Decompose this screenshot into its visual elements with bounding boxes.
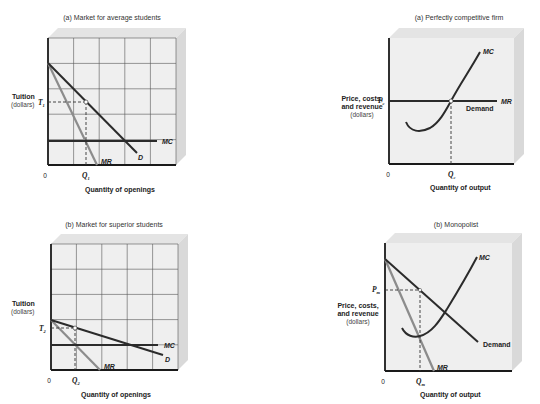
price-tick-label: Pm	[372, 285, 381, 295]
figure-canvas: (a) Market for average students	[0, 0, 540, 404]
x-axis-title: Quantity of openings	[85, 186, 155, 194]
box-side-face	[514, 28, 524, 164]
box-side-face	[512, 233, 522, 371]
demand-label: Demand	[466, 105, 494, 112]
price-tick-label: Pc	[378, 96, 385, 106]
y-axis-title-line2: and revenue	[337, 310, 378, 317]
y-axis-title: Tuition	[12, 300, 35, 307]
box-top-face	[48, 28, 186, 38]
y-axis-unit: (dollars)	[346, 318, 369, 326]
price-tick-label: T1	[38, 98, 45, 108]
y-axis-title-line2: and revenue	[341, 103, 382, 110]
mc-label: MC	[483, 48, 495, 55]
quantity-tick-label: Qc	[448, 170, 455, 180]
y-axis-title-line1: Price, costs,	[337, 302, 378, 310]
mc-label: MC	[162, 138, 174, 145]
y-axis-unit: (dollars)	[11, 308, 34, 316]
panel-superior-students: (b) Market for superior students MC D MR…	[11, 221, 188, 399]
panel-title: (b) Monopolist	[434, 221, 478, 229]
monopoly-price-point	[418, 288, 421, 291]
x-axis-title: Quantity of openings	[81, 391, 151, 399]
x-axis-title: Quantity of output	[420, 391, 481, 399]
equilibrium-point	[73, 326, 77, 330]
y-axis-unit: (dollars)	[11, 101, 34, 109]
quantity-tick-label: Q2	[72, 376, 80, 386]
y-axis-title: Tuition	[12, 93, 35, 100]
mr-label: MR	[101, 158, 112, 165]
box-top-face	[389, 28, 524, 38]
y-axis-unit: (dollars)	[350, 111, 373, 119]
panel-title: (a) Perfectly competitive firm	[415, 14, 504, 22]
mc-label: MC	[164, 342, 176, 349]
panel-title: (b) Market for superior students	[65, 221, 163, 229]
origin-label: 0	[381, 378, 385, 385]
mr-label: MR	[501, 98, 512, 105]
quantity-tick-label: Q1	[82, 171, 90, 181]
demand-label: Demand	[483, 341, 511, 348]
panel-perfectly-competitive-firm: (a) Perfectly competitive firm MC MR Dem…	[341, 14, 524, 192]
demand-label: D	[138, 154, 143, 161]
quantity-tick-label: Qm	[416, 377, 425, 387]
demand-label: D	[165, 356, 170, 363]
equilibrium-point	[84, 100, 88, 104]
price-tick-label: T2	[39, 324, 47, 334]
panel-monopolist: (b) Monopolist MC Demand MR Price, costs…	[337, 221, 522, 399]
box-side-face	[176, 28, 186, 165]
box-top-face	[385, 233, 522, 243]
mr-label: MR	[437, 364, 448, 371]
panel-title: (a) Market for average students	[63, 14, 161, 22]
origin-label: 0	[43, 172, 47, 179]
y-axis-title-line1: Price, costs,	[341, 95, 382, 103]
x-axis-title: Quantity of output	[430, 184, 491, 192]
origin-label: 0	[386, 171, 390, 178]
origin-label: 0	[47, 377, 51, 384]
box-side-face	[178, 234, 188, 370]
mr-label: MR	[104, 363, 115, 370]
equilibrium-point	[449, 99, 453, 103]
box-top-face	[51, 234, 188, 244]
mc-label: MC	[479, 254, 491, 261]
plot-area	[51, 244, 178, 370]
panel-average-students: (a) Market for average students	[11, 14, 186, 194]
